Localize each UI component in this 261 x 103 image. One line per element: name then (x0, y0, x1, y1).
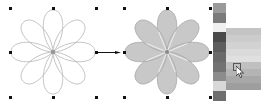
selection-handle[interactable] (9, 96, 12, 99)
outline-flower-shape[interactable] (10, 8, 96, 96)
palette-swatch[interactable] (213, 23, 226, 33)
mouse-pointer-icon (236, 66, 245, 78)
petal (43, 52, 63, 94)
selection-handle[interactable] (95, 51, 98, 54)
shade-swatch[interactable] (226, 56, 261, 63)
selection-handle[interactable] (209, 51, 212, 54)
shade-swatch[interactable] (226, 35, 261, 42)
selection-handle[interactable] (52, 96, 55, 99)
selection-handle[interactable] (52, 7, 55, 10)
shade-swatch[interactable] (226, 42, 261, 49)
petal (43, 10, 63, 52)
selection-handle[interactable] (95, 7, 98, 10)
selection-handle[interactable] (209, 96, 212, 99)
arrow-right-icon (97, 51, 121, 54)
palette-swatch[interactable] (213, 32, 226, 42)
filled-flower-shape[interactable] (124, 8, 210, 96)
palette-swatch[interactable] (213, 3, 226, 13)
petal (53, 42, 95, 62)
palette-swatch[interactable] (213, 62, 226, 72)
selection-handle[interactable] (166, 7, 169, 10)
selection-handle[interactable] (9, 7, 12, 10)
drawing-canvas[interactable] (0, 0, 261, 103)
shade-swatch[interactable] (226, 49, 261, 56)
shade-swatch[interactable] (226, 28, 261, 35)
shade-swatch[interactable] (226, 83, 261, 90)
palette-swatch[interactable] (213, 42, 226, 52)
selection-handle[interactable] (123, 51, 126, 54)
petal (11, 42, 53, 62)
selection-handle[interactable] (166, 96, 169, 99)
palette-swatch[interactable] (213, 72, 226, 82)
palette-swatch[interactable] (213, 52, 226, 62)
selection-handle[interactable] (9, 51, 12, 54)
palette-swatch[interactable] (213, 81, 226, 91)
color-palette[interactable] (213, 3, 226, 101)
color-shade-flyout[interactable] (226, 28, 261, 90)
selection-handle[interactable] (209, 7, 212, 10)
palette-swatch[interactable] (213, 91, 226, 101)
palette-swatch[interactable] (213, 13, 226, 23)
selection-handle[interactable] (123, 7, 126, 10)
selection-handle[interactable] (95, 96, 98, 99)
selection-handle[interactable] (123, 96, 126, 99)
